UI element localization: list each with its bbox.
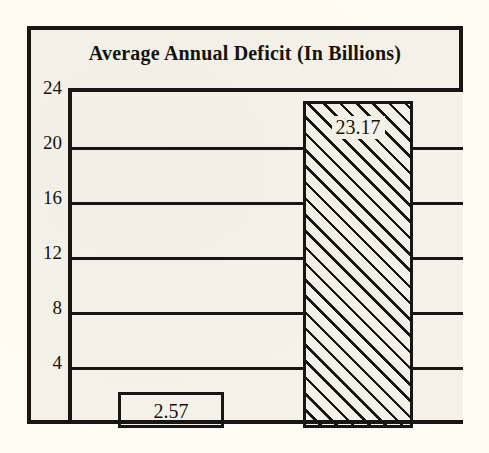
y-tick-label-8: 8	[20, 297, 62, 319]
bar-2: 23.17	[303, 101, 413, 428]
bar-2-value-label: 23.17	[306, 116, 410, 139]
chart-figure: Average Annual Deficit (In Billions) 24 …	[0, 0, 489, 453]
x-axis-baseline	[68, 420, 463, 424]
y-axis-tick-labels: 24 20 16 12 8 4	[14, 88, 62, 424]
chart-title: Average Annual Deficit (In Billions)	[27, 42, 463, 65]
y-tick-label-16: 16	[20, 187, 62, 209]
plot-area: 2.57 23.17	[68, 88, 463, 424]
y-tick-label-12: 12	[20, 242, 62, 264]
y-tick-label-24: 24	[20, 77, 62, 99]
y-tick-label-4: 4	[20, 352, 62, 374]
y-tick-label-20: 20	[20, 132, 62, 154]
plot-inner: 2.57 23.17	[72, 92, 463, 424]
